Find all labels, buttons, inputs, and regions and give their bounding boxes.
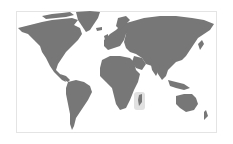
iceland[interactable] xyxy=(96,27,102,31)
australia[interactable] xyxy=(176,94,198,112)
japan[interactable] xyxy=(198,40,204,50)
new-zealand[interactable] xyxy=(204,110,208,120)
southeast-asia-islands[interactable] xyxy=(168,80,190,90)
arctic-islands[interactable] xyxy=(42,12,74,19)
world-map xyxy=(0,0,233,144)
land-masses xyxy=(18,11,214,130)
north-america[interactable] xyxy=(18,18,82,82)
british-isles[interactable] xyxy=(104,34,108,40)
south-america[interactable] xyxy=(66,80,92,130)
